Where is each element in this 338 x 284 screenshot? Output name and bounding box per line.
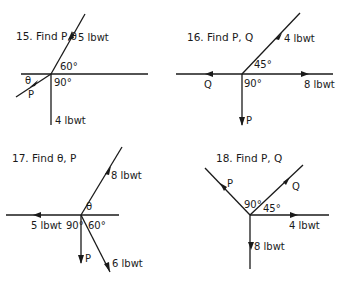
- problem-15-title: 15. Find P,θ: [16, 30, 77, 42]
- angle-label-45: 45°: [254, 59, 272, 70]
- force-label-6lbwt: 6 lbwt: [112, 258, 143, 269]
- force-diagrams: 15. Find P,θ 5 lbwt 4 lbwt P 60° 90° θ 1…: [0, 0, 338, 284]
- force-label-p: P: [28, 89, 34, 100]
- force-label-4lbwt: 4 lbwt: [284, 33, 315, 44]
- force-label-8lbwt: 8 lbwt: [304, 79, 335, 90]
- arrowhead-icon: [283, 177, 290, 185]
- problem-18: 18. Find P, Q P Q 4 lbwt 8 lbwt 90° 45°: [205, 152, 329, 269]
- force-label-8lbwt: 8 lbwt: [111, 170, 142, 181]
- angle-label-60: 60°: [88, 220, 106, 231]
- problem-15: 15. Find P,θ 5 lbwt 4 lbwt P 60° 90° θ: [16, 14, 148, 126]
- arrowhead-icon: [33, 212, 41, 218]
- angle-label-45: 45°: [263, 203, 281, 214]
- arrowhead-icon: [275, 33, 282, 40]
- arrowhead-icon: [205, 71, 213, 77]
- force-label-p: P: [85, 253, 91, 264]
- angle-label-90: 90°: [66, 220, 84, 231]
- force-label-4lbwt: 4 lbwt: [55, 115, 86, 126]
- angle-label-theta: θ: [25, 75, 31, 86]
- problem-17-title: 17. Find θ, P: [12, 152, 76, 164]
- arrowhead-icon: [290, 212, 298, 218]
- angle-label-90: 90°: [244, 78, 262, 89]
- arrowhead-icon: [104, 262, 110, 272]
- force-label-p: P: [246, 115, 252, 126]
- force-label-5lbwt: 5 lbwt: [78, 32, 109, 43]
- arrowhead-icon: [301, 71, 309, 77]
- arrowhead-icon: [239, 117, 245, 126]
- arrowhead-icon: [78, 255, 84, 264]
- force-label-8lbwt: 8 lbwt: [254, 241, 285, 252]
- problem-16-title: 16. Find P, Q: [187, 31, 253, 43]
- problem-16: 16. Find P, Q 4 lbwt 8 lbwt Q P 45° 90°: [176, 13, 335, 126]
- force-label-5lbwt: 5 lbwt: [31, 220, 62, 231]
- problem-17: 17. Find θ, P 8 lbwt 5 lbwt P 6 lbwt θ 9…: [6, 147, 143, 272]
- force-label-q: Q: [292, 181, 300, 192]
- force-label-q: Q: [204, 79, 212, 90]
- angle-label-90: 90°: [54, 77, 72, 88]
- force-label-4lbwt: 4 lbwt: [289, 220, 320, 231]
- angle-label-90: 90°: [244, 199, 262, 210]
- angle-label-theta: θ: [86, 201, 92, 212]
- problem-18-title: 18. Find P, Q: [216, 152, 282, 164]
- angle-label-60: 60°: [60, 61, 78, 72]
- force-label-p: P: [227, 178, 233, 189]
